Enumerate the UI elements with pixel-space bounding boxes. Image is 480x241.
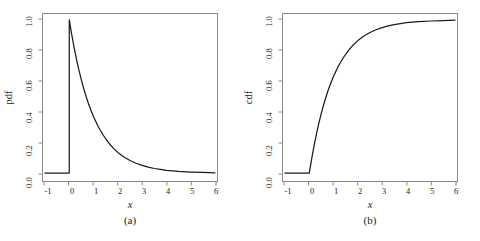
xtick-label: 6 <box>206 186 226 196</box>
xtick-label: 4 <box>398 186 418 196</box>
ytick-label: 0.2 <box>24 130 34 156</box>
ytick-label: 0.2 <box>264 130 274 156</box>
ytick-label: 0.0 <box>24 162 34 188</box>
xtick-label: 1 <box>326 186 346 196</box>
panel-b-cdf: 0.0 0.2 0.4 0.6 0.8 1.0 -1 0 1 2 3 4 5 6… <box>240 0 480 241</box>
xtick-label: -1 <box>278 186 298 196</box>
ytick-label: 0.6 <box>24 65 34 91</box>
y-axis-label-cdf: cdf <box>243 78 254 118</box>
panel-caption-a: (a) <box>42 214 218 226</box>
xtick-label: -1 <box>38 186 58 196</box>
xtick-label: 2 <box>350 186 370 196</box>
cdf-curve <box>285 20 455 173</box>
y-axis-label-pdf: pdf <box>3 78 14 118</box>
ytick-label: 1.0 <box>24 1 34 27</box>
pdf-curve-svg <box>43 14 217 181</box>
ytick-label: 0.6 <box>264 65 274 91</box>
ytick-label: 0.8 <box>264 33 274 59</box>
cdf-curve-svg <box>283 14 457 181</box>
ytick-label: 1.0 <box>264 1 274 27</box>
xtick-label: 5 <box>182 186 202 196</box>
ytick-label: 0.0 <box>264 162 274 188</box>
x-axis-label-cdf: x <box>282 199 458 210</box>
xtick-label: 2 <box>110 186 130 196</box>
xtick-label: 1 <box>86 186 106 196</box>
exponential-distribution-figure: 0.0 0.2 0.4 0.6 0.8 1.0 -1 0 1 2 3 4 5 6… <box>0 0 480 241</box>
xtick-label: 6 <box>446 186 466 196</box>
xtick-label: 3 <box>374 186 394 196</box>
pdf-curve <box>45 20 215 173</box>
ytick-label: 0.8 <box>24 33 34 59</box>
xtick-label: 0 <box>62 186 82 196</box>
x-axis-label-pdf: x <box>42 199 218 210</box>
xtick-label: 0 <box>302 186 322 196</box>
ytick-label: 0.4 <box>24 97 34 123</box>
panel-a-pdf: 0.0 0.2 0.4 0.6 0.8 1.0 -1 0 1 2 3 4 5 6… <box>0 0 240 241</box>
xtick-label: 5 <box>422 186 442 196</box>
xtick-label: 3 <box>134 186 154 196</box>
xtick-label: 4 <box>158 186 178 196</box>
plot-area-cdf <box>282 13 458 182</box>
ytick-label: 0.4 <box>264 97 274 123</box>
panel-caption-b: (b) <box>282 214 458 226</box>
plot-area-pdf <box>42 13 218 182</box>
